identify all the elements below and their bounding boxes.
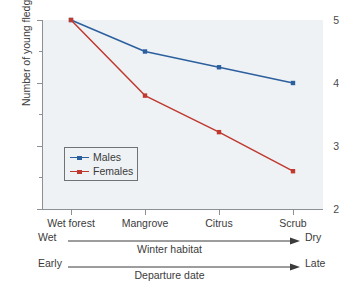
y-axis-title-wrapper: Number of young fledged: [20, 0, 34, 132]
y-tick-label-3: 3: [309, 141, 339, 152]
annotation-habitat-middle-text: Winter habitat: [137, 243, 202, 256]
y-tick-major-3: [37, 146, 43, 147]
y-tick-minor-3-5: [39, 114, 43, 115]
annotation-departure-start-label: Early: [38, 257, 62, 269]
legend-label-females: Females: [93, 166, 133, 177]
annotation-habitat-middle-label: Winter habitat: [0, 243, 339, 256]
annotation-habitat-end-label: Dry: [305, 231, 321, 243]
legend-item-females: Females: [70, 165, 133, 178]
legend: Males Females: [64, 147, 138, 181]
annotation-departure-middle-text: Departure date: [134, 269, 204, 282]
x-axis-line: [42, 209, 323, 210]
y-tick-label-2: 2: [309, 204, 339, 215]
y-tick-minor-4-5: [39, 51, 43, 52]
y-tick-major-4: [37, 83, 43, 84]
annotation-departure-middle-label: Departure date: [0, 269, 339, 282]
y-tick-major-5: [37, 20, 43, 21]
plot-area: [42, 20, 323, 210]
y-axis-title: Number of young fledged: [20, 0, 32, 132]
annotation-winter-habitat: Wet Dry Winter habitat: [0, 231, 339, 257]
y-tick-major-2: [37, 209, 43, 210]
x-tick-mangrove: [145, 210, 146, 215]
x-tick-label-wet-forest: Wet forest: [47, 217, 95, 229]
legend-swatch-males-icon: [70, 153, 89, 162]
legend-swatch-females-icon: [70, 167, 89, 176]
annotation-departure-date: Early Late Departure date: [0, 257, 339, 283]
y-tick-label-4: 4: [309, 78, 339, 89]
legend-label-males: Males: [93, 152, 121, 163]
x-tick-label-mangrove: Mangrove: [122, 217, 169, 229]
legend-item-males: Males: [70, 151, 121, 164]
x-tick-wet-forest: [71, 210, 72, 215]
x-tick-scrub: [293, 210, 294, 215]
x-tick-label-scrub: Scrub: [279, 217, 306, 229]
annotation-departure-end-label: Late: [305, 257, 325, 269]
y-axis-line: [42, 20, 43, 210]
x-tick-label-citrus: Citrus: [205, 217, 232, 229]
y-tick-label-5: 5: [309, 15, 339, 26]
chart-figure: 5 4 3 2 Number of young fledged Wet fore…: [0, 0, 339, 288]
x-tick-citrus: [219, 210, 220, 215]
y-tick-minor-2-5: [39, 177, 43, 178]
annotation-habitat-start-label: Wet: [38, 231, 56, 243]
